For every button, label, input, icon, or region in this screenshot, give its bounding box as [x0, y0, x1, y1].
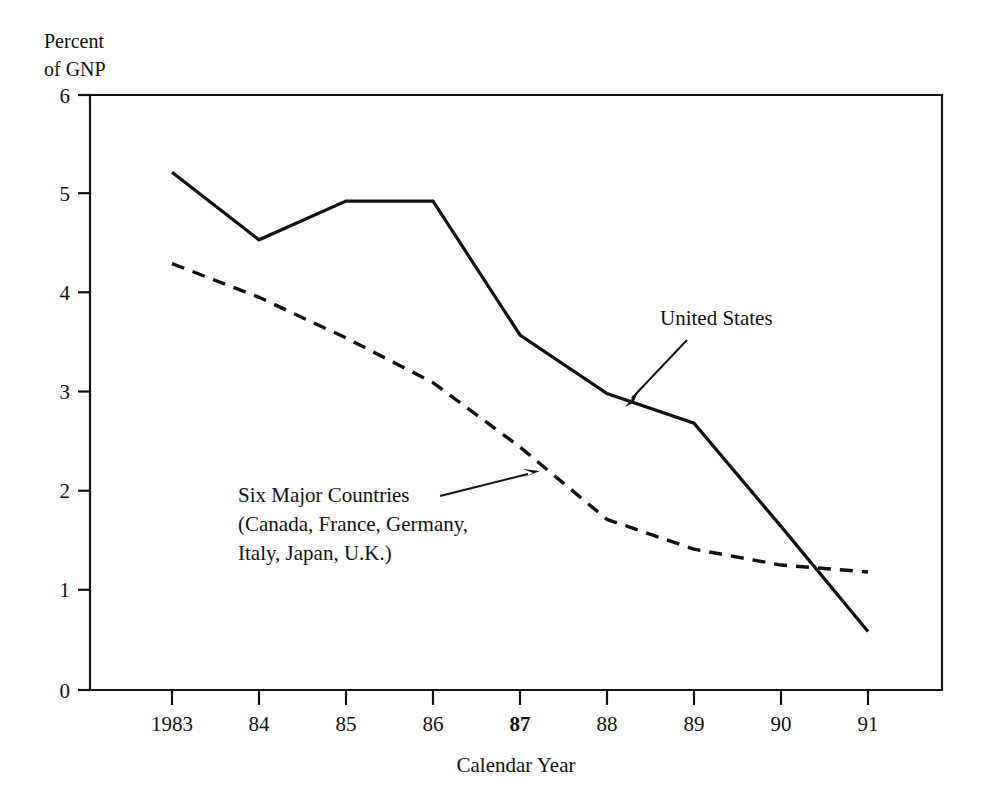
y-axis-ticks [78, 95, 90, 690]
y-tick-label-2: 2 [60, 479, 71, 503]
x-axis-tick-labels: 1983 84 85 86 87 88 89 90 91 [151, 712, 879, 736]
x-tick-label-90: 90 [771, 712, 792, 736]
x-tick-label-88: 88 [597, 712, 618, 736]
x-tick-label-91: 91 [858, 712, 879, 736]
x-tick-label-85: 85 [336, 712, 357, 736]
y-axis-title-line1: Percent [44, 30, 104, 52]
annotation-united-states: United States [625, 306, 773, 407]
annotation-label-united-states: United States [660, 306, 773, 330]
y-axis-title-line2: of GNP [44, 58, 106, 80]
y-tick-label-4: 4 [60, 281, 71, 305]
y-tick-label-5: 5 [60, 182, 71, 206]
annotation-label-six-major-line3: Italy, Japan, U.K.) [238, 541, 392, 565]
x-axis-ticks [172, 690, 868, 705]
plot-frame [90, 95, 942, 690]
x-tick-label-1983: 1983 [151, 712, 193, 736]
y-tick-label-3: 3 [60, 380, 71, 404]
annotation-label-six-major-line2: (Canada, France, Germany, [238, 512, 468, 536]
chart-container: 6 5 4 3 2 1 0 Percent of GNP 1983 [0, 0, 983, 798]
y-axis-title: Percent of GNP [44, 30, 106, 80]
annotation-six-major-countries: Six Major Countries (Canada, France, Ger… [238, 469, 540, 565]
x-tick-label-89: 89 [684, 712, 705, 736]
y-tick-label-1: 1 [60, 578, 71, 602]
arrow-head-six-major-countries [522, 469, 540, 478]
chart-svg: 6 5 4 3 2 1 0 Percent of GNP 1983 [0, 0, 983, 798]
annotation-label-six-major-line1: Six Major Countries [238, 483, 410, 507]
x-tick-label-87: 87 [510, 712, 531, 736]
x-tick-label-84: 84 [249, 712, 271, 736]
y-axis-tick-labels: 6 5 4 3 2 1 0 [60, 84, 71, 703]
y-tick-label-0: 0 [60, 679, 71, 703]
x-tick-label-86: 86 [423, 712, 444, 736]
y-tick-label-6: 6 [60, 84, 71, 108]
x-axis-title: Calendar Year [457, 753, 576, 777]
